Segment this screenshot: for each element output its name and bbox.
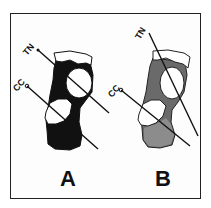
- panel-b: TN CC: [106, 26, 198, 148]
- foot-bones-diagram: TN CC TN CC: [0, 0, 211, 208]
- panel-a: TN CC: [11, 42, 109, 150]
- panel-b-tn-label: TN: [133, 26, 148, 41]
- panel-a-cc-label: CC: [11, 77, 27, 94]
- panel-a-talar-head: [66, 68, 92, 98]
- panel-a-tn-label: TN: [21, 42, 36, 58]
- panel-b-label: B: [155, 166, 171, 192]
- panel-a-label: A: [60, 166, 76, 192]
- panel-b-talar-head: [160, 67, 184, 99]
- panel-b-cc-label: CC: [106, 83, 122, 100]
